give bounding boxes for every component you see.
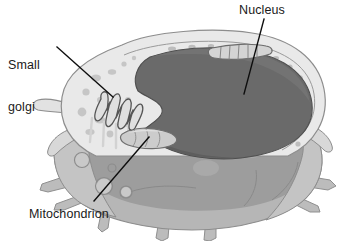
vacuole-2-fill bbox=[97, 179, 112, 194]
granule-l9 bbox=[107, 131, 114, 138]
cell-diagram-figure: Small golgi Nucleus Mitochondrion bbox=[0, 0, 348, 241]
cytoplasm-granule-lower-1 bbox=[193, 160, 219, 176]
label-small-golgi-line2: golgi bbox=[8, 100, 40, 114]
granule-l13 bbox=[132, 56, 136, 60]
label-small-golgi: Small golgi bbox=[8, 30, 40, 142]
label-nucleus: Nucleus bbox=[239, 3, 285, 17]
cell-illustration bbox=[0, 0, 348, 241]
granule-l2 bbox=[108, 69, 116, 75]
striation-2 bbox=[103, 122, 104, 146]
vacuole-3-fill bbox=[121, 187, 131, 197]
vacuole-1-fill bbox=[76, 154, 89, 167]
granule-l5 bbox=[78, 108, 87, 117]
granule-r13 bbox=[295, 141, 300, 146]
label-small-golgi-line1: Small bbox=[8, 58, 40, 72]
label-mitochondrion: Mitochondrion bbox=[29, 207, 109, 221]
granule-l3 bbox=[82, 88, 89, 95]
granule-l12 bbox=[121, 61, 126, 66]
